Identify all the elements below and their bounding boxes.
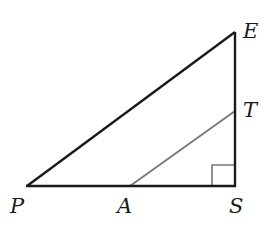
segment-PE xyxy=(27,32,235,186)
label-E: E xyxy=(242,19,258,43)
label-S: S xyxy=(229,194,243,218)
triangle-diagram: E T P A S xyxy=(0,0,276,229)
label-P: P xyxy=(9,194,25,218)
right-angle-marker xyxy=(212,165,235,186)
label-A: A xyxy=(115,194,132,218)
segment-AT xyxy=(130,111,235,186)
label-T: T xyxy=(243,98,259,122)
triangle-figure: E T P A S xyxy=(0,0,276,229)
